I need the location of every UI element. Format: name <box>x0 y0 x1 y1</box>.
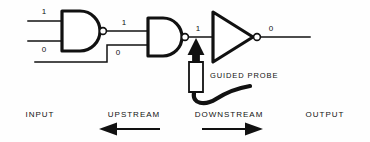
logic-diagram-figure: 1 0 1 0 1 0 GUIDED PROBE INPUT UPSTREAM … <box>0 0 370 142</box>
circuit-diagram-canvas: 1 0 1 0 1 0 GUIDED PROBE INPUT UPSTREAM … <box>0 0 370 142</box>
nand1-output-bubble <box>100 28 107 35</box>
signal-inverter-output: 0 <box>269 24 274 33</box>
signal-nand2-output: 1 <box>196 24 201 33</box>
inverter-body <box>213 12 253 62</box>
nand1-body <box>62 11 100 51</box>
signal-nand1-output: 1 <box>122 18 127 27</box>
downstream-label: DOWNSTREAM <box>195 110 264 119</box>
upstream-label: UPSTREAM <box>108 110 160 119</box>
probe-body-shape <box>189 62 203 92</box>
nand2-body <box>148 18 182 56</box>
signal-nand1-input-bottom: 0 <box>42 45 47 54</box>
guided-probe-label: GUIDED PROBE <box>210 71 278 80</box>
inverter-gate <box>213 12 310 62</box>
inverter-output-bubble <box>254 34 261 41</box>
output-label: OUTPUT <box>306 110 345 119</box>
signal-nand2-input-bottom: 0 <box>116 48 121 57</box>
downstream-arrow-icon <box>202 124 260 134</box>
probe-arrow-icon <box>189 40 203 62</box>
nand2-output-bubble <box>182 34 189 41</box>
upstream-arrow-icon <box>102 124 160 134</box>
input-label: INPUT <box>26 110 55 119</box>
signal-nand1-input-top: 1 <box>42 7 47 16</box>
